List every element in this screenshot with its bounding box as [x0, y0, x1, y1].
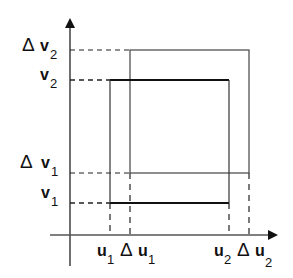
y-label-v2: v 2 — [40, 66, 57, 91]
svg-text:1: 1 — [107, 252, 114, 267]
svg-text:2: 2 — [224, 252, 231, 267]
svg-text:2: 2 — [50, 76, 57, 91]
shifted-rectangle — [130, 50, 249, 173]
svg-text:v: v — [40, 37, 49, 54]
x-label-u1: u 1 — [97, 242, 114, 267]
svg-text:u: u — [97, 242, 107, 259]
y-label-v1: v 1 — [41, 184, 58, 209]
x-label-u2: u 2 — [214, 242, 231, 267]
x-label-delta-u1: Δ u 1 — [120, 239, 155, 267]
svg-text:2: 2 — [50, 47, 57, 62]
y-label-delta-v1: Δ v 1 — [20, 151, 58, 179]
svg-text:v: v — [40, 66, 49, 83]
displacement-diagram: Δ v 2 v 2 Δ v 1 v 1 u 1 Δ u 1 u 2 Δ u 2 — [0, 0, 293, 278]
horizontal-guides — [70, 50, 130, 203]
svg-text:Δ: Δ — [237, 239, 250, 260]
svg-text:u: u — [214, 242, 224, 259]
svg-text:1: 1 — [51, 194, 58, 209]
y-label-delta-v2: Δ v 2 — [22, 34, 57, 62]
svg-text:Δ: Δ — [22, 34, 35, 55]
svg-text:v: v — [41, 154, 50, 171]
svg-text:u: u — [255, 242, 265, 259]
svg-text:Δ: Δ — [120, 239, 133, 260]
svg-text:u: u — [138, 242, 148, 259]
svg-text:1: 1 — [51, 164, 58, 179]
x-label-delta-u2: Δ u 2 — [237, 239, 272, 270]
original-rectangle — [110, 80, 229, 203]
svg-text:1: 1 — [148, 252, 155, 267]
svg-text:Δ: Δ — [20, 151, 33, 172]
svg-text:v: v — [41, 184, 50, 201]
svg-text:2: 2 — [265, 255, 272, 270]
